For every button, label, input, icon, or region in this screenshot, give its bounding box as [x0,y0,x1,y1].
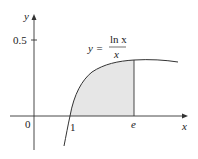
equation-lhs: y = [87,42,103,54]
x-axis-arrow-icon [182,114,188,119]
x-axis-label: x [181,120,187,132]
x-tick-label-e: e [131,118,136,130]
y-axis-arrow-icon [32,14,37,20]
y-tick-label-half: 0.5 [13,34,27,46]
origin-label: 0 [25,118,31,130]
equation-denominator: x [113,48,119,60]
chart-figure: y 0.5 0 1 e x y = ln x x [0,0,198,159]
y-axis-label: y [23,10,29,22]
x-tick-label-one: 1 [70,121,76,133]
equation-numerator: ln x [110,33,127,45]
